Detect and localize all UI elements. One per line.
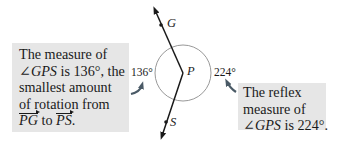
angle-label-224: 224° — [214, 66, 236, 78]
right-callout-box: The reflex measure of ∠GPS is 224°. — [238, 83, 326, 130]
right-callout-line-2: measure of — [243, 101, 326, 118]
point-label-g: G — [167, 16, 176, 31]
left-callout-to: to — [38, 112, 56, 128]
left-callout-box: The measure of ∠GPS is 136°, the smalles… — [12, 43, 129, 132]
right-callout-line-3: ∠GPS is 224°. — [243, 117, 326, 134]
left-callout-line-2: ∠GPS is 136°, the — [19, 63, 129, 80]
point-g-dot — [159, 23, 163, 27]
left-callout-line-3: smallest amount — [19, 79, 129, 96]
right-callout-line-3-rest: is 224°. — [281, 117, 328, 133]
left-callout-period: . — [72, 112, 76, 128]
pointer-arrow-136-icon — [131, 85, 142, 94]
angle-label-136: 136° — [131, 66, 153, 78]
left-callout-line-5: PG to PS. — [19, 112, 129, 129]
left-callout-line-1: The measure of — [19, 46, 129, 63]
point-label-p: P — [187, 64, 195, 79]
left-callout-line-2-rest: is 136°, the — [57, 63, 125, 79]
right-callout-line-1: The reflex — [243, 84, 326, 101]
point-s-dot — [164, 120, 168, 124]
point-label-s: S — [170, 115, 176, 130]
angle-gps-symbol-reflex: ∠GPS — [243, 117, 281, 133]
ray-pg-notation: PG — [19, 112, 38, 129]
angle-gps-symbol: ∠GPS — [19, 63, 57, 79]
pointer-arrow-224-icon — [227, 82, 236, 92]
ray-ps-notation: PS — [56, 112, 72, 129]
